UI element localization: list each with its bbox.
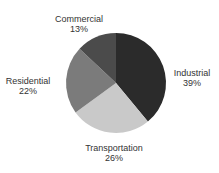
label-commercial-pct: 13% xyxy=(55,24,103,34)
label-residential-name: Residential xyxy=(6,76,51,86)
label-commercial: Commercial 13% xyxy=(55,14,103,34)
label-transportation: Transportation 26% xyxy=(85,143,143,163)
label-industrial: Industrial 39% xyxy=(174,68,211,88)
label-commercial-name: Commercial xyxy=(55,14,103,24)
label-transportation-name: Transportation xyxy=(85,143,143,153)
label-transportation-pct: 26% xyxy=(85,153,143,163)
label-industrial-name: Industrial xyxy=(174,68,211,78)
label-residential: Residential 22% xyxy=(6,76,51,96)
pie-slices xyxy=(66,33,166,133)
label-residential-pct: 22% xyxy=(6,86,51,96)
label-industrial-pct: 39% xyxy=(174,78,211,88)
